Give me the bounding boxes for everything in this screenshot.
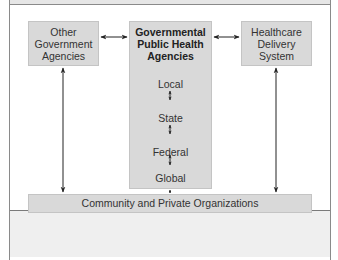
gap-arrow	[160, 188, 180, 196]
